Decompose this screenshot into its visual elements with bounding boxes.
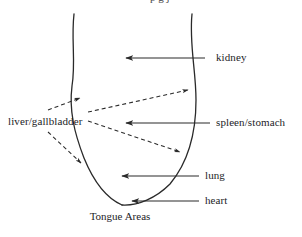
tongue-areas-figure: p g j kidney s <box>0 0 302 237</box>
tongue-left-edge <box>71 14 122 205</box>
liver-lower-left-arrow <box>48 132 81 163</box>
liver-upper-right-arrow <box>88 90 188 112</box>
liver-upper-left-arrow <box>48 98 80 110</box>
label-spleen-stomach: spleen/stomach <box>216 116 285 128</box>
label-lung: lung <box>205 169 225 181</box>
label-liver-gallbladder: liver/gallbladder <box>8 115 82 127</box>
label-heart: heart <box>205 194 227 206</box>
solid-leader-arrows <box>122 58 210 201</box>
figure-caption: Tongue Areas <box>0 210 240 223</box>
label-kidney: kidney <box>216 51 247 63</box>
liver-lower-right-arrow <box>88 121 180 152</box>
